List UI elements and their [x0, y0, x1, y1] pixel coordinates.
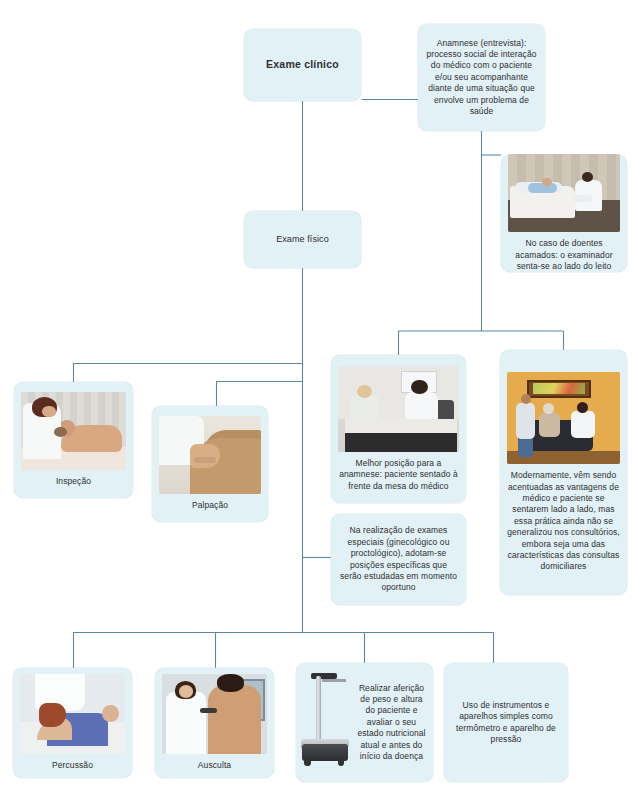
node-exame-clinico[interactable]: Exame clínico: [244, 29, 361, 101]
node-inspecao-label: Inspeção: [21, 476, 126, 487]
node-anamnese[interactable]: Anamnese (entrevista): processo social d…: [418, 24, 545, 131]
photo-weighing-scale-icon: [300, 670, 354, 776]
node-ausculta-label: Ausculta: [162, 760, 267, 771]
node-palpacao[interactable]: Palpação: [152, 406, 268, 522]
wire-fisico-palpacao: [217, 382, 303, 407]
node-consultas-domiciliares[interactable]: Modernamente, vêm sendo acentuadas as va…: [500, 350, 627, 595]
node-afericao-peso-altura-label: Realizar aferição de peso e altura do pa…: [354, 683, 427, 763]
wire-fisico-inspecao: [74, 364, 303, 383]
node-afericao-peso-altura[interactable]: Realizar aferição de peso e altura do pa…: [296, 663, 433, 782]
node-exames-especiais[interactable]: Na realização de exames especiais (ginec…: [331, 514, 466, 605]
photo-bedridden-patient-icon: [508, 154, 620, 232]
node-instrumentos-simples-label: Uso de instrumentos e aparelhos simples …: [451, 700, 561, 746]
photo-palpation-icon: [159, 416, 261, 494]
node-doentes-acamados[interactable]: No caso de doentes acamados: o examinado…: [501, 155, 627, 272]
node-melhor-posicao-anamnese[interactable]: Melhor posição para a anamnese: paciente…: [331, 355, 466, 503]
node-anamnese-label: Anamnese (entrevista): processo social d…: [425, 38, 538, 118]
photo-desk-consultation-icon: [338, 366, 459, 452]
photo-percussion-icon: [20, 674, 125, 754]
node-exame-fisico[interactable]: Exame físico: [244, 211, 361, 268]
node-doentes-acamados-label: No caso de doentes acamados: o examinado…: [508, 238, 620, 272]
node-instrumentos-simples[interactable]: Uso de instrumentos e aparelhos simples …: [444, 663, 568, 782]
node-palpacao-label: Palpação: [159, 500, 261, 511]
diagram-canvas: Exame clínico Anamnese (entrevista): pro…: [0, 0, 632, 789]
node-exames-especiais-label: Na realização de exames especiais (ginec…: [338, 525, 459, 593]
node-exame-fisico-label: Exame físico: [251, 234, 354, 245]
node-percussao-label: Percussão: [20, 760, 125, 771]
photo-home-consultation-icon: [507, 372, 620, 464]
node-exame-clinico-label: Exame clínico: [251, 59, 354, 70]
node-percussao[interactable]: Percussão: [13, 668, 132, 778]
node-consultas-domiciliares-label: Modernamente, vêm sendo acentuadas as va…: [507, 470, 620, 573]
photo-inspection-icon: [21, 392, 126, 470]
node-melhor-posicao-label: Melhor posição para a anamnese: paciente…: [338, 458, 459, 492]
node-ausculta[interactable]: Ausculta: [155, 668, 274, 778]
node-inspecao[interactable]: Inspeção: [14, 382, 133, 498]
photo-auscultation-icon: [162, 674, 267, 754]
